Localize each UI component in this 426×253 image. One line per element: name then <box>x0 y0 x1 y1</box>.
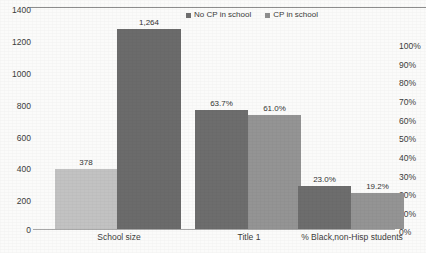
y-axis-left-tick: 0 <box>26 226 31 235</box>
x-axis-categories: School size Title 1 % Black,non-Hisp stu… <box>33 233 395 251</box>
bar-cp-title-1[interactable] <box>248 115 301 229</box>
y-axis-left-tick: 400 <box>17 165 31 174</box>
bar-no-cp-title-1[interactable] <box>195 110 248 229</box>
plot-area: 378 1,264 63.7% 61.0% 23.0% <box>33 7 395 229</box>
legend-item-no-cp[interactable]: No CP in school <box>186 11 251 19</box>
bar-value-label: 378 <box>55 159 117 167</box>
y-axis-left-tick: 200 <box>17 197 31 206</box>
bar-value-label: 61.0% <box>248 105 301 113</box>
bar-value-label: 19.2% <box>351 183 404 191</box>
bar-cp-pct-black[interactable] <box>351 193 404 229</box>
legend-label: No CP in school <box>194 11 251 19</box>
bar-value-label: 23.0% <box>298 176 351 184</box>
legend-swatch-icon <box>265 13 270 18</box>
bar-group-title-1: 63.7% 61.0% <box>195 7 303 229</box>
legend-item-cp[interactable]: CP in school <box>265 11 318 19</box>
bar-slot: 23.0% <box>298 7 351 229</box>
y-axis-left-tick: 800 <box>17 102 31 111</box>
category-label-pct-black: % Black,non-Hisp students <box>285 233 419 242</box>
legend-swatch-icon <box>186 13 191 18</box>
category-label-school-size: School size <box>55 233 183 242</box>
bar-slot: 63.7% <box>195 7 248 229</box>
bar-slot: 19.2% <box>351 7 404 229</box>
bar-group-school-size: 378 1,264 <box>55 7 183 229</box>
legend-label: CP in school <box>273 11 318 19</box>
bar-slot: 1,264 <box>117 7 181 229</box>
y-axis-left: 1400 1200 1000 800 600 400 200 0 <box>0 0 31 253</box>
chart-legend: No CP in school CP in school <box>186 11 318 19</box>
x-axis-baseline <box>33 229 395 230</box>
bar-group-pct-black-non-hisp: 23.0% 19.2% <box>298 7 406 229</box>
y-axis-left-tick: 1200 <box>12 38 31 47</box>
y-axis-left-tick: 1400 <box>12 6 31 15</box>
bar-cp-school-size[interactable] <box>117 29 181 229</box>
bar-chart: 1400 1200 1000 800 600 400 200 0 100% 90… <box>0 0 426 253</box>
bar-slot: 61.0% <box>248 7 301 229</box>
bar-no-cp-pct-black[interactable] <box>298 186 351 229</box>
y-axis-left-tick: 1000 <box>12 70 31 79</box>
y-axis-left-tick: 600 <box>17 134 31 143</box>
bar-value-label: 1,264 <box>117 19 181 27</box>
bar-value-label: 63.7% <box>195 100 248 108</box>
bar-slot: 378 <box>55 7 117 229</box>
bar-no-cp-school-size[interactable] <box>55 169 117 229</box>
